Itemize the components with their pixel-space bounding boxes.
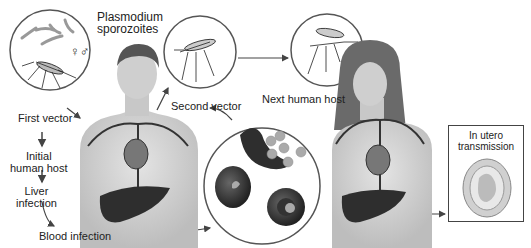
blood-infection-circle <box>204 128 320 244</box>
heart <box>124 139 148 169</box>
initial-human-host-label: Initial human host <box>10 150 67 174</box>
next-human-host-figure <box>332 40 432 248</box>
second-vector-label: Second vector <box>171 100 241 112</box>
next-human-host-label: Next human host <box>262 93 345 105</box>
fetus-icon <box>449 126 525 223</box>
in-utero-transmission-box: In utero transmission <box>448 125 524 222</box>
second-vector-circle <box>164 16 236 88</box>
heart <box>366 145 390 175</box>
blood-infection-label: Blood infection <box>39 230 111 242</box>
liver-infection-label: Liver infection <box>16 185 57 209</box>
sporozoites-label: Plasmodium sporozoites <box>97 11 163 35</box>
sex-symbols: ♀♂ <box>70 46 90 58</box>
first-vector-label: First vector <box>18 112 72 124</box>
